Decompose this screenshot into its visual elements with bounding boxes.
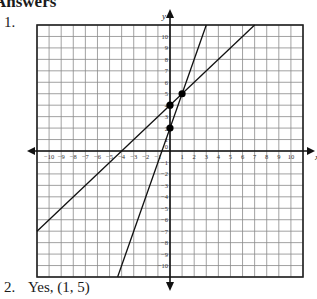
y-tick-label: −9: [161, 251, 168, 258]
plotted-point: [166, 124, 173, 131]
x-tick-label: 4: [217, 153, 221, 160]
x-tick-label: 2: [193, 153, 196, 160]
x-axis-left-arrow-icon: [27, 147, 35, 155]
x-tick-label: −2: [142, 153, 149, 160]
x-tick-label: 1: [180, 153, 183, 160]
x-tick-label: −3: [130, 153, 137, 160]
x-tick-label: 3: [205, 153, 208, 160]
x-tick-label: 8: [265, 153, 268, 160]
y-tick-label: 8: [165, 56, 168, 63]
y-tick-label: 9: [165, 44, 168, 51]
y-axis-down-arrow-icon: [166, 282, 174, 291]
y-axis-up-arrow-icon: [166, 9, 174, 18]
x-tick-label: −6: [94, 153, 102, 160]
x-tick-label: −9: [58, 153, 65, 160]
y-tick-label: 5: [165, 90, 168, 97]
x-tick-label: −5: [106, 153, 113, 160]
y-tick-label: 10: [162, 33, 169, 40]
plotted-point: [178, 90, 185, 97]
answer-text: Yes, (1, 5): [28, 279, 90, 295]
problem-2-answer: 2.Yes, (1, 5): [4, 279, 90, 296]
y-tick-label: −3: [161, 182, 168, 189]
y-tick-label: −5: [161, 205, 168, 212]
x-tick-label: −7: [82, 153, 90, 160]
y-tick-label: −6: [161, 216, 169, 223]
origin-label: 0: [165, 143, 168, 150]
y-tick-label: −2: [161, 170, 168, 177]
x-tick-label: 5: [229, 153, 232, 160]
x-tick-label: −10: [44, 153, 54, 160]
y-tick-label: 3: [165, 113, 168, 120]
plotted-point: [166, 102, 173, 109]
y-tick-label: −10: [158, 262, 168, 269]
x-axis-label: x: [314, 152, 317, 162]
y-tick-label: −8: [161, 239, 168, 246]
y-tick-label: −4: [161, 193, 169, 200]
y-tick-label: −7: [161, 228, 169, 235]
x-tick-label: 10: [288, 153, 295, 160]
y-tick-label: −1: [161, 159, 168, 166]
y-axis-label: y: [161, 11, 166, 21]
x-tick-label: 6: [241, 153, 245, 160]
x-axis-right-arrow-icon: [307, 147, 315, 155]
coordinate-graph: xy−10−9−8−7−6−5−4−3−2−112345678910109876…: [0, 0, 317, 299]
problem-number-2: 2.: [4, 279, 28, 296]
x-tick-label: −8: [70, 153, 77, 160]
x-tick-label: 7: [253, 153, 257, 160]
x-tick-label: 9: [277, 153, 280, 160]
